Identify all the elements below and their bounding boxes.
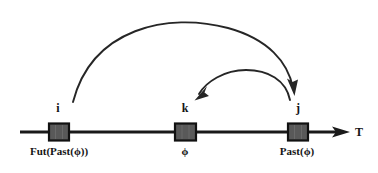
node-letter-j: j xyxy=(278,102,318,114)
node-label-j: Past(ϕ) xyxy=(257,145,337,157)
node-letter-i: i xyxy=(38,102,78,114)
arc-j-to-k xyxy=(195,70,291,101)
node-box-j xyxy=(288,124,308,141)
arc-i-to-j-path xyxy=(73,22,293,102)
time-axis-label: T xyxy=(355,126,363,138)
node-letter-k: k xyxy=(165,102,205,114)
node-label-i: Fut(Past(ϕ)) xyxy=(9,145,109,157)
arc-j-to-k-arrowhead xyxy=(195,86,210,101)
arc-j-to-k-path xyxy=(199,70,290,100)
node-label-k: ϕ xyxy=(155,145,215,157)
node-box-i xyxy=(49,124,69,141)
timeline-diagram: i k j Fut(Past(ϕ)) ϕ Past(ϕ) T xyxy=(0,0,378,173)
node-box-k xyxy=(175,124,196,141)
arc-i-to-j xyxy=(73,22,298,102)
